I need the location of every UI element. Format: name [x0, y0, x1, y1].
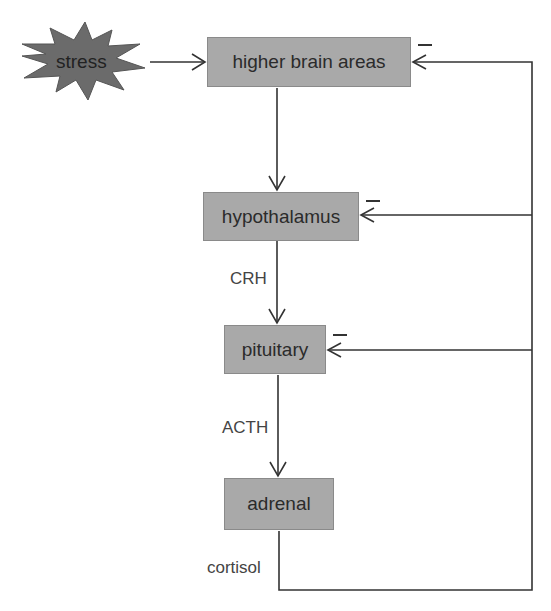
edge-label-acth: ACTH	[222, 418, 268, 438]
node-higher-brain-areas: higher brain areas	[207, 37, 411, 87]
inhibition-sign-pituitary	[333, 334, 347, 336]
stress-label: stress	[56, 51, 107, 73]
inhibition-sign-hypothalamus	[366, 200, 380, 202]
node-label: higher brain areas	[232, 51, 385, 73]
node-adrenal: adrenal	[224, 478, 334, 530]
node-label: hypothalamus	[222, 206, 340, 228]
node-label: adrenal	[247, 493, 310, 515]
hpa-axis-diagram: stress higher brain areas hypothalamus C…	[0, 0, 551, 611]
node-pituitary: pituitary	[224, 325, 326, 374]
edge-label-crh: CRH	[230, 269, 267, 289]
inhibition-sign-higher	[418, 44, 432, 46]
node-hypothalamus: hypothalamus	[203, 192, 359, 241]
edge-label-cortisol: cortisol	[207, 558, 261, 578]
node-label: pituitary	[242, 339, 309, 361]
